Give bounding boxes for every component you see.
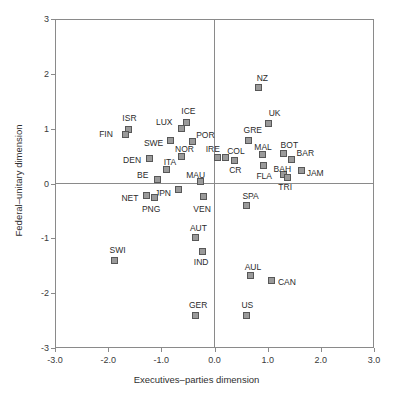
y-tick-label: -2 [21,289,49,298]
data-point-marker [268,277,275,284]
x-tick-label: -3.0 [35,356,75,365]
data-point-label: ICE [181,107,195,116]
data-point-marker [167,137,174,144]
data-point-label: IRE [206,145,220,154]
x-tick-label: -1.0 [141,356,181,365]
y-tick-label: 0 [21,180,49,189]
y-tick-label: 2 [21,70,49,79]
data-point-marker [111,257,118,264]
y-tick [51,129,55,130]
y-tick [51,74,55,75]
scatter-plot-figure: NZUKISRFINICELUXPORSWEGREMALBOTBARIRECOL… [0,0,393,396]
data-point-label: MAU [186,171,205,180]
data-point-label: SPA [242,192,258,201]
x-tick [321,348,322,352]
x-tick [55,348,56,352]
data-point-label: POR [196,131,214,140]
x-tick [108,348,109,352]
data-point-label: BAR [297,149,314,158]
data-point-label: CAN [278,278,296,287]
data-point-marker [192,312,199,319]
data-point-label: SWE [144,139,163,148]
data-point-label: AUT [190,224,207,233]
x-tick-label: -2.0 [88,356,128,365]
data-point-marker [245,137,252,144]
data-point-marker [199,248,206,255]
data-point-marker [260,162,267,169]
data-point-marker [214,154,221,161]
data-point-label: TRI [278,183,292,192]
data-point-marker [231,157,238,164]
data-point-label: PNG [142,205,160,214]
data-point-label: NET [121,194,138,203]
data-point-label: GRE [244,126,262,135]
data-point-label: BAH [274,165,291,174]
data-point-label: SWI [110,246,126,255]
data-point-marker [298,167,305,174]
data-point-label: NZ [257,74,268,83]
data-point-marker [280,150,287,157]
y-axis-title: Federal–unitary dimension [13,31,24,331]
data-point-marker [122,131,129,138]
data-point-label: ITA [164,158,177,167]
y-tick-label: -3 [21,344,49,353]
data-point-marker [255,84,262,91]
y-tick [51,184,55,185]
data-point-label: CR [229,166,241,175]
x-tick-label: 0.0 [195,356,235,365]
x-tick [215,348,216,352]
data-point-marker [265,120,272,127]
data-point-marker [192,234,199,241]
data-point-label: UK [269,109,281,118]
x-tick [268,348,269,352]
data-point-label: COL [227,147,244,156]
data-point-marker [154,176,161,183]
data-point-marker [163,166,170,173]
data-point-label: US [241,301,253,310]
data-point-label: DEN [123,156,141,165]
plot-area: NZUKISRFINICELUXPORSWEGREMALBOTBARIRECOL… [55,19,374,348]
y-tick-label: -1 [21,234,49,243]
x-tick [374,348,375,352]
data-point-label: BOT [281,141,298,150]
data-point-label: LUX [156,118,173,127]
x-tick-label: 1.0 [248,356,288,365]
data-point-marker [247,272,254,279]
y-tick [51,238,55,239]
data-point-label: IND [194,258,209,267]
x-axis-title: Executives–parties dimension [0,374,393,385]
data-point-label: FIN [99,130,113,139]
data-point-marker [175,186,182,193]
data-point-marker [200,193,207,200]
data-point-marker [284,174,291,181]
x-tick-label: 3.0 [354,356,393,365]
data-point-marker [243,202,250,209]
x-tick-label: 2.0 [301,356,341,365]
data-point-label: BE [137,171,148,180]
data-point-label: ISR [122,114,136,123]
data-point-label: JAM [307,169,324,178]
data-point-label: MAL [254,143,271,152]
zero-vertical-reference-line [214,19,215,348]
data-point-marker [178,125,185,132]
y-tick-label: 1 [21,125,49,134]
data-point-marker [143,192,150,199]
data-point-label: FLA [256,172,272,181]
data-point-label: VEN [193,205,210,214]
data-point-label: GER [189,301,207,310]
data-point-marker [146,155,153,162]
data-point-label: NOR [175,145,194,154]
data-point-marker [243,312,250,319]
y-tick [51,293,55,294]
data-point-marker [151,194,158,201]
y-tick-label: 3 [21,15,49,24]
x-tick [161,348,162,352]
data-point-label: AUL [245,263,262,272]
y-tick [51,19,55,20]
data-point-marker [288,156,295,163]
data-point-marker [259,151,266,158]
